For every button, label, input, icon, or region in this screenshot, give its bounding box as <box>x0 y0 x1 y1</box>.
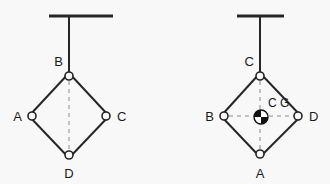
link-bar-bottom-right <box>69 116 109 158</box>
label-left-top: B <box>54 54 63 69</box>
label-left-bottom: D <box>64 166 73 181</box>
joint-node-a <box>28 112 36 120</box>
joint-node-a-bottom <box>256 150 264 158</box>
joint-node-b-left <box>220 112 228 120</box>
link-bar-top-right <box>69 73 109 116</box>
label-center-of-gravity: C G <box>268 96 289 110</box>
left-panel: B A C D <box>13 16 126 181</box>
link-bar-top-left-right-panel <box>221 73 260 116</box>
joint-node-d <box>65 151 73 159</box>
diagram-svg: B A C D <box>0 0 330 184</box>
label-left-right: C <box>117 109 126 124</box>
joint-node-c-top <box>256 72 264 80</box>
right-panel: C B D A C G <box>205 16 318 181</box>
label-right-top: C <box>245 54 254 69</box>
joint-node-c <box>102 112 110 120</box>
joint-node-d-right <box>294 112 302 120</box>
figure-canvas: B A C D <box>0 0 330 184</box>
label-right-bottom: A <box>256 166 265 181</box>
label-right-right: D <box>309 109 318 124</box>
joint-node-b <box>65 72 73 80</box>
label-left-left: A <box>13 109 22 124</box>
link-bar-bottom-left <box>29 116 69 158</box>
link-bar-top-left <box>29 73 69 116</box>
center-of-gravity-symbol <box>254 110 268 124</box>
cg-quadrant-lower-right-icon <box>261 117 268 124</box>
cg-quadrant-upper-left-icon <box>254 110 261 117</box>
label-right-left: B <box>205 109 214 124</box>
link-bar-bottom-left-right-panel <box>221 116 260 157</box>
